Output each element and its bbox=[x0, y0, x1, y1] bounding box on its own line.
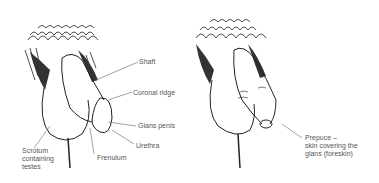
label-urethra: Urethra bbox=[136, 142, 159, 150]
label-prepuce: Prepuce – skin covering the glans (fores… bbox=[305, 134, 358, 158]
right-hair bbox=[196, 20, 266, 39]
label-frenulum: Frenulum bbox=[97, 154, 127, 162]
label-scrotum: Scrotum containing testes bbox=[22, 147, 54, 171]
label-shaft: Shaft bbox=[139, 58, 155, 66]
label-coronal-ridge: Coronal ridge bbox=[133, 89, 175, 97]
label-glans-penis: Glans penis bbox=[138, 122, 175, 130]
